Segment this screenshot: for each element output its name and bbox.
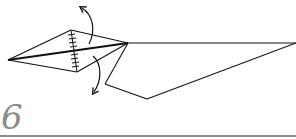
fold-up-arrow-icon: [82, 8, 93, 44]
step-number: 6: [1, 100, 23, 134]
origami-diagram: [0, 0, 296, 139]
paper-body: [105, 43, 296, 99]
divider-rule: [0, 135, 296, 137]
